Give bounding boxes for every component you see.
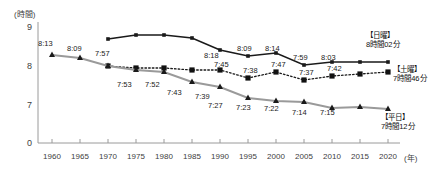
data-label: 7:53 <box>117 80 132 89</box>
legend-weekday-value: 7時間12分 <box>381 122 415 131</box>
data-label: 7:38 <box>243 66 258 75</box>
data-label: 7:23 <box>236 103 251 112</box>
data-label: 7:52 <box>145 80 160 89</box>
data-label: 7:45 <box>214 60 229 69</box>
legend-sunday-value: 8時間02分 <box>366 40 400 49</box>
legend-saturday-name: 【土曜】 <box>393 65 427 74</box>
data-label: 8:13 <box>38 39 53 48</box>
data-label: 7:42 <box>327 64 342 73</box>
data-label: 7:22 <box>264 104 279 113</box>
data-label: 7:57 <box>95 49 110 58</box>
plot-area <box>0 0 445 174</box>
legend-sunday: 【日曜】 8時間02分 <box>366 31 400 50</box>
data-label: 7:47 <box>271 60 286 69</box>
legend-weekday: 【平日】 7時間12分 <box>381 113 415 132</box>
data-label: 7:59 <box>293 53 308 62</box>
legend-sunday-name: 【日曜】 <box>366 31 400 40</box>
data-label: 7:14 <box>292 108 307 117</box>
data-label: 7:37 <box>299 68 314 77</box>
chart-container: (時間) 9 8 7 0 1960 1965 1970 1975 1980 19… <box>0 0 445 174</box>
data-label: 7:15 <box>320 108 335 117</box>
legend-weekday-name: 【平日】 <box>381 113 415 122</box>
data-label: 8:03 <box>321 53 336 62</box>
data-label: 8:14 <box>265 44 280 53</box>
data-label: 8:18 <box>204 51 219 60</box>
x-axis-ticks <box>52 139 388 143</box>
data-label: 7:43 <box>167 88 182 97</box>
data-label: 8:09 <box>67 44 82 53</box>
data-label: 8:09 <box>237 44 252 53</box>
legend-saturday-value: 7時間46分 <box>393 74 427 83</box>
data-label: 7:39 <box>195 92 210 101</box>
data-label: 7:27 <box>208 101 223 110</box>
legend-saturday: 【土曜】 7時間46分 <box>393 65 427 84</box>
